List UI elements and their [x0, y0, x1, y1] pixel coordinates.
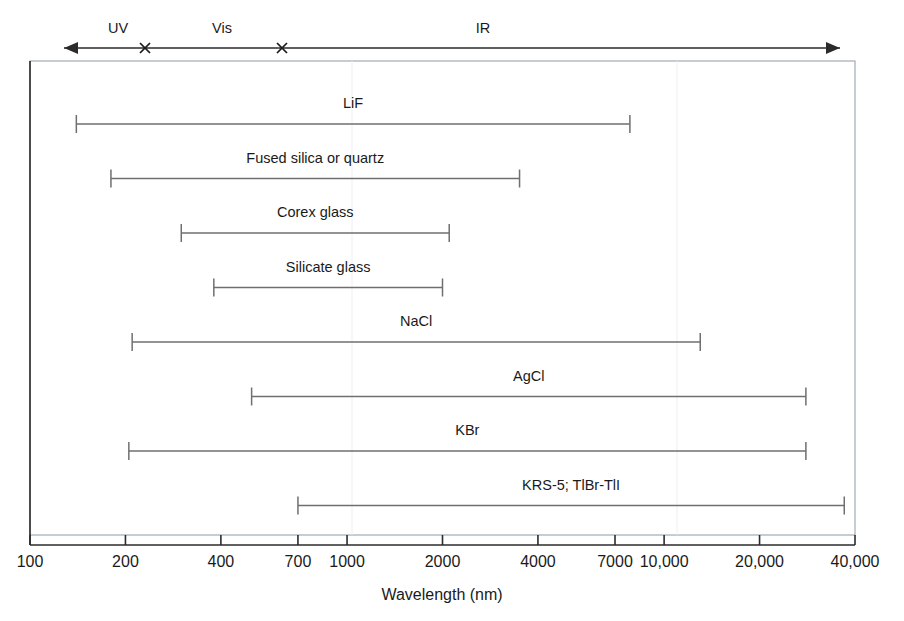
arrow-right-icon — [826, 42, 840, 54]
x-axis: 100200400700100020004000700010,00020,000… — [17, 535, 880, 603]
x-tick-label: 20,000 — [735, 553, 784, 570]
region-label-ir: IR — [476, 20, 491, 36]
spectral-region-axis: UV Vis IR — [64, 20, 840, 54]
bars-layer: LiFFused silica or quartzCorex glassSili… — [76, 95, 844, 515]
region-label-uv: UV — [108, 20, 128, 36]
range-bar[interactable]: KBr — [129, 422, 806, 460]
x-tick: 2000 — [425, 535, 461, 570]
range-bar[interactable]: AgCl — [252, 368, 806, 406]
x-tick: 40,000 — [831, 535, 880, 570]
range-bar-label: NaCl — [400, 313, 432, 329]
chart-figure: UV Vis IR LiFFused silica or quartzCorex… — [0, 0, 904, 621]
range-bar-label: Fused silica or quartz — [246, 150, 384, 166]
transmission-range-chart: UV Vis IR LiFFused silica or quartzCorex… — [0, 0, 904, 621]
plot-area — [30, 61, 855, 545]
x-tick-label: 1000 — [329, 553, 365, 570]
range-bar-label: LiF — [343, 95, 363, 111]
range-bar[interactable]: LiF — [76, 95, 630, 133]
range-bar-label: AgCl — [513, 368, 544, 384]
x-tick-label: 200 — [112, 553, 139, 570]
x-tick: 20,000 — [735, 535, 784, 570]
x-tick: 7000 — [597, 535, 633, 570]
x-tick-label: 7000 — [597, 553, 633, 570]
range-bar[interactable]: NaCl — [132, 313, 700, 351]
range-bar-label: KRS-5; TlBr-TlI — [522, 477, 620, 493]
x-axis-ticks: 100200400700100020004000700010,00020,000… — [17, 535, 880, 570]
x-tick: 200 — [112, 535, 139, 570]
x-tick-label: 100 — [17, 553, 44, 570]
range-bar[interactable]: Corex glass — [181, 204, 449, 242]
range-bar[interactable]: KRS-5; TlBr-TlI — [298, 477, 844, 515]
range-bar-label: KBr — [455, 422, 479, 438]
range-bar-label: Corex glass — [277, 204, 354, 220]
x-tick: 10,000 — [640, 535, 689, 570]
x-tick: 100 — [17, 535, 44, 570]
range-bar[interactable]: Fused silica or quartz — [111, 150, 520, 188]
x-axis-title: Wavelength (nm) — [381, 586, 502, 603]
arrow-left-icon — [64, 42, 78, 54]
x-tick: 1000 — [329, 535, 365, 570]
range-bar-label: Silicate glass — [286, 259, 371, 275]
x-tick-label: 2000 — [425, 553, 461, 570]
x-tick-label: 400 — [208, 553, 235, 570]
x-tick-label: 700 — [285, 553, 312, 570]
x-tick-label: 10,000 — [640, 553, 689, 570]
range-bar[interactable]: Silicate glass — [214, 259, 443, 297]
x-tick: 400 — [208, 535, 235, 570]
x-tick: 4000 — [520, 535, 556, 570]
x-tick-label: 40,000 — [831, 553, 880, 570]
region-label-vis: Vis — [212, 20, 232, 36]
x-tick: 700 — [285, 535, 312, 570]
x-tick-label: 4000 — [520, 553, 556, 570]
